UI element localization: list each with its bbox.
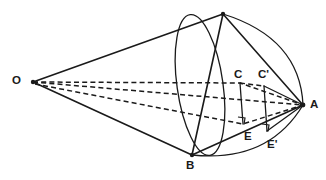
vertex-dot-a <box>301 103 306 108</box>
vertex-dot-b <box>190 153 194 157</box>
dashed-segment-c-to-cprime <box>240 83 264 86</box>
dashed-line-o-to-a-upper <box>33 82 303 105</box>
point-label-cprime: C' <box>258 69 269 81</box>
cross-section-ellipse <box>167 11 232 158</box>
chord-apex-to-b <box>192 14 223 155</box>
vertex-dot-o <box>31 80 35 84</box>
dashed-line-o-through-e-to-a <box>35 84 303 124</box>
segment-cprime-to-a <box>264 86 303 105</box>
point-label-c: C <box>234 69 242 81</box>
figure-canvas <box>0 0 326 180</box>
cone-edge-o-to-apex <box>33 14 223 82</box>
point-label-b: B <box>186 160 194 172</box>
geometry-figure: O C C' A E E' B <box>0 0 326 180</box>
point-label-eprime: E' <box>267 139 277 151</box>
point-label-a: A <box>310 99 318 111</box>
point-label-o: O <box>12 75 21 87</box>
right-angle-mark-eprime <box>262 124 269 132</box>
point-label-e: E <box>244 131 252 143</box>
vertex-dot-apex <box>221 12 225 16</box>
